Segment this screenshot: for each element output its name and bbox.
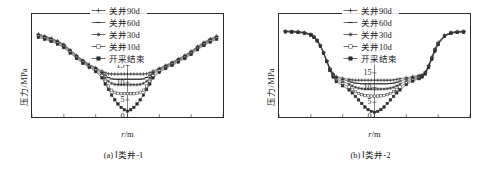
legend-marker-icon [343,18,358,27]
figure-container: 压力/MPa 051015202530 −600−400−20002004006… [0,0,494,173]
legend-marker-icon [91,30,106,39]
legend-item: 关井30d [343,28,397,40]
legend-item: 关井90d [343,4,397,16]
panel-a: 压力/MPa 051015202530 −600−400−20002004006… [0,0,247,173]
legend-marker-icon [343,42,358,51]
y-tick-label: 10 [117,79,128,87]
legend-label: 关井10d [361,40,392,52]
legend-item: 开采结束 [343,52,397,64]
legend-label: 开采结束 [109,52,145,64]
legend-item: 关井60d [343,16,397,28]
legend-label: 开采结束 [361,52,397,64]
caption-a: (a) Ⅰ类井-1 [0,148,247,160]
legend-marker-icon [343,30,358,39]
legend-marker-icon [91,54,106,63]
legend-marker-icon [343,54,358,63]
legend-label: 关井90d [361,4,392,16]
caption-b: (b) Ⅰ类井-2 [247,148,494,160]
y-tick-label: 5 [121,96,128,104]
legend-label: 关井60d [361,16,392,28]
legend-marker-icon [91,6,106,15]
y-tick-label: 0 [121,113,128,118]
x-axis-label-a: r/m [31,129,224,139]
y-axis-label-b: 压力/MPa [264,68,276,106]
legend-item: 关井30d [91,28,145,40]
legend-marker-icon [91,18,106,27]
x-axis-label-b: r/m [278,129,471,139]
y-axis-label-a: 压力/MPa [17,68,29,106]
legend-label: 关井60d [109,16,140,28]
legend-item: 开采结束 [91,52,145,64]
y-tick-label: 5 [368,98,375,106]
legend-b: 关井90d关井60d关井30d关井10d开采结束 [342,3,399,65]
legend-label: 关井30d [109,28,140,40]
y-tick-label: 0 [368,113,375,118]
y-tick-label: 15 [364,69,375,77]
legend-marker-icon [343,6,358,15]
legend-label: 关井30d [361,28,392,40]
legend-label: 关井10d [109,40,140,52]
legend-a: 关井90d关井60d关井30d关井10d开采结束 [90,3,147,65]
legend-marker-icon [91,42,106,51]
legend-item: 关井10d [91,40,145,52]
legend-item: 关井60d [91,16,145,28]
y-tick-label: 10 [364,84,375,92]
legend-item: 关井90d [91,4,145,16]
legend-label: 关井90d [109,4,140,16]
legend-item: 关井10d [343,40,397,52]
panel-b: 压力/MPa 05101520253035 −600−400−200020040… [247,0,494,173]
